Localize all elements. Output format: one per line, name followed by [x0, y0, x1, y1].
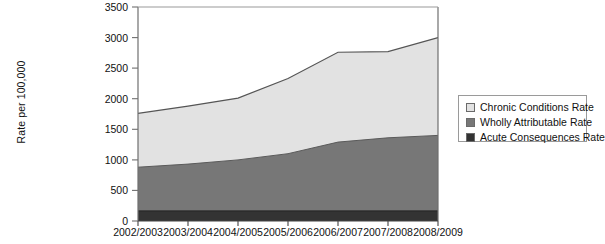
legend-entry-acute-consequences[interactable]: Acute Consequences Rate	[466, 131, 605, 144]
y-tick-label: 1500	[20, 124, 128, 134]
y-axis-tick-labels: 3500 3000 2500 2000 1500 1000 500 0	[20, 0, 128, 244]
legend-swatch-icon	[466, 133, 475, 142]
legend-entry-wholly-attributable[interactable]: Wholly Attributable Rate	[466, 116, 605, 129]
x-axis-tick-labels: 2002/2003 2003/2004 2004/2005 2005/2006 …	[0, 226, 588, 244]
legend-entry-chronic-conditions[interactable]: Chronic Conditions Rate	[466, 101, 605, 114]
legend-swatch-icon	[466, 103, 475, 112]
legend-label: Acute Consequences Rate	[480, 131, 605, 144]
legend: Chronic Conditions Rate Wholly Attributa…	[466, 101, 605, 144]
y-tick-label: 3000	[20, 33, 128, 43]
y-tick-label: 2000	[20, 94, 128, 104]
y-tick-label: 2500	[20, 63, 128, 73]
series-area-acute-consequences	[138, 211, 438, 221]
y-tick-marks	[132, 7, 138, 221]
x-tick-label: 2008/2009	[398, 226, 478, 238]
y-tick-label: 0	[20, 216, 128, 226]
y-tick-label: 500	[20, 185, 128, 195]
y-tick-label: 3500	[20, 2, 128, 12]
legend-label: Chronic Conditions Rate	[480, 101, 594, 114]
legend-swatch-icon	[466, 118, 475, 127]
legend-label: Wholly Attributable Rate	[480, 116, 592, 129]
y-tick-label: 1000	[20, 155, 128, 165]
